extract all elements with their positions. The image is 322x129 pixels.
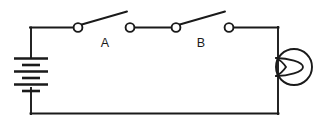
circuit-schematic-canvas: A B: [0, 0, 322, 129]
switch-a-terminal-node[interactable]: [126, 23, 135, 32]
switch-a[interactable]: A: [74, 12, 135, 51]
switch-a-label: A: [101, 36, 110, 50]
lamp-glass-circle: [276, 49, 312, 85]
switch-b[interactable]: B: [172, 12, 234, 51]
switch-a-blade[interactable]: [80, 12, 127, 26]
lamp-symbol: [276, 49, 312, 85]
wire-network: [30, 27, 279, 114]
switch-b-terminal-node[interactable]: [225, 23, 234, 32]
switch-b-blade[interactable]: [178, 12, 225, 26]
battery-symbol: [14, 59, 48, 92]
switch-b-label: B: [197, 36, 205, 50]
switch-a-pivot-node[interactable]: [74, 23, 83, 32]
switch-b-pivot-node[interactable]: [172, 23, 181, 32]
circuit-diagram: A B: [0, 0, 322, 129]
